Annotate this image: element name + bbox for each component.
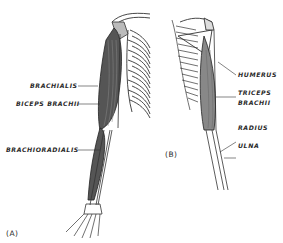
label-brachialis: BRACHIALIS xyxy=(30,83,78,89)
label-biceps-brachii: BICEPS BRACHII xyxy=(16,101,80,107)
arm-anterior xyxy=(66,22,128,238)
label-brachioradialis: BRACHIORADIALIS xyxy=(6,147,79,153)
label-triceps-line1: TRICEPS xyxy=(238,90,271,96)
label-ulna: ULNA xyxy=(238,143,259,149)
arm-posterior xyxy=(200,30,228,190)
label-humerus: HUMERUS xyxy=(238,72,277,78)
panel-a-id: (A) xyxy=(6,229,18,238)
label-radius: RADIUS xyxy=(238,125,268,131)
panel-b-id: (B) xyxy=(165,150,178,159)
anatomy-drawing xyxy=(0,0,283,243)
anatomy-figure: BRACHIALIS BICEPS BRACHII BRACHIORADIALI… xyxy=(0,0,283,243)
label-triceps-line2: BRACHII xyxy=(238,100,271,106)
